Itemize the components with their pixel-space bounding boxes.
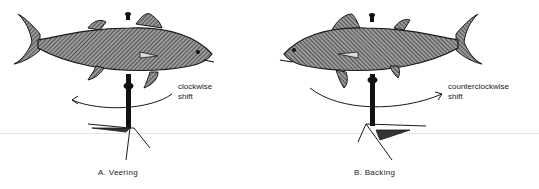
- shift-label-line1: clockwise: [178, 82, 212, 92]
- shift-label-line1: counterclockwise: [448, 82, 509, 92]
- weathervane-diagram: clockwise shift A. Veering: [0, 0, 539, 189]
- caption-backing: B. Backing: [354, 168, 395, 177]
- panel-veering: clockwise shift A. Veering: [0, 0, 270, 189]
- caption-veering: A. Veering: [98, 168, 138, 177]
- shift-label-counterclockwise: counterclockwise shift: [448, 82, 509, 102]
- panel-backing: counterclockwise shift B. Backing: [270, 0, 539, 189]
- shift-label-line2: shift: [448, 92, 509, 102]
- shift-label-clockwise: clockwise shift: [178, 82, 212, 102]
- shift-label-line2: shift: [178, 92, 212, 102]
- weathervane-fish-right-icon: [0, 0, 270, 189]
